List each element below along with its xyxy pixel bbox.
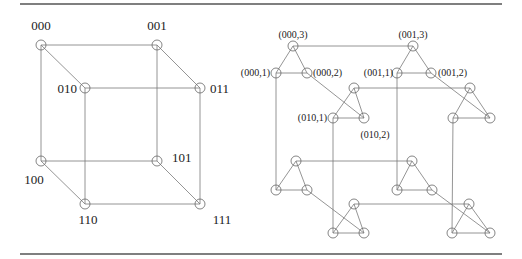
ccc-label: (000,3) [278,29,307,41]
hypercube-edge [157,45,200,88]
ccc-edge [307,190,364,233]
hypercube-label: 100 [24,172,44,187]
ccc-label: (001,3) [398,29,427,41]
ccc-label: (000,2) [313,67,342,79]
ccc-label: (001,2) [438,67,467,79]
ccc-edge [333,88,354,118]
hypercube-graph: 000001010011100101110111 [24,18,231,227]
ccc-edge [293,46,307,73]
hypercube-label: 111 [213,212,232,227]
ccc-label: (001,1) [364,67,393,79]
hypercube-edge [41,161,85,204]
ccc-label: (000,1) [241,67,270,79]
hypercube-edges [41,45,200,204]
ccc-label: (010,1) [298,112,327,124]
ccc-label: (010,2) [360,129,389,141]
hypercube-label: 011 [210,81,229,96]
hypercube-label: 101 [172,150,192,165]
hypercube-edge [157,161,200,204]
hypercube-ccc-diagram: 000001010011100101110111 (000,3)(000,1)(… [0,0,522,259]
hypercube-label: 000 [31,18,51,33]
ccc-edge [470,88,490,118]
cube-connected-cycles-graph: (000,3)(000,1)(000,2)(001,3)(001,1)(001,… [241,29,495,238]
hypercube-label: 010 [58,81,78,96]
hypercube-label: 110 [78,212,97,227]
hypercube-label: 001 [147,18,167,33]
ccc-edge [431,73,490,118]
ccc-edge [452,118,453,233]
ccc-edge [432,190,490,233]
